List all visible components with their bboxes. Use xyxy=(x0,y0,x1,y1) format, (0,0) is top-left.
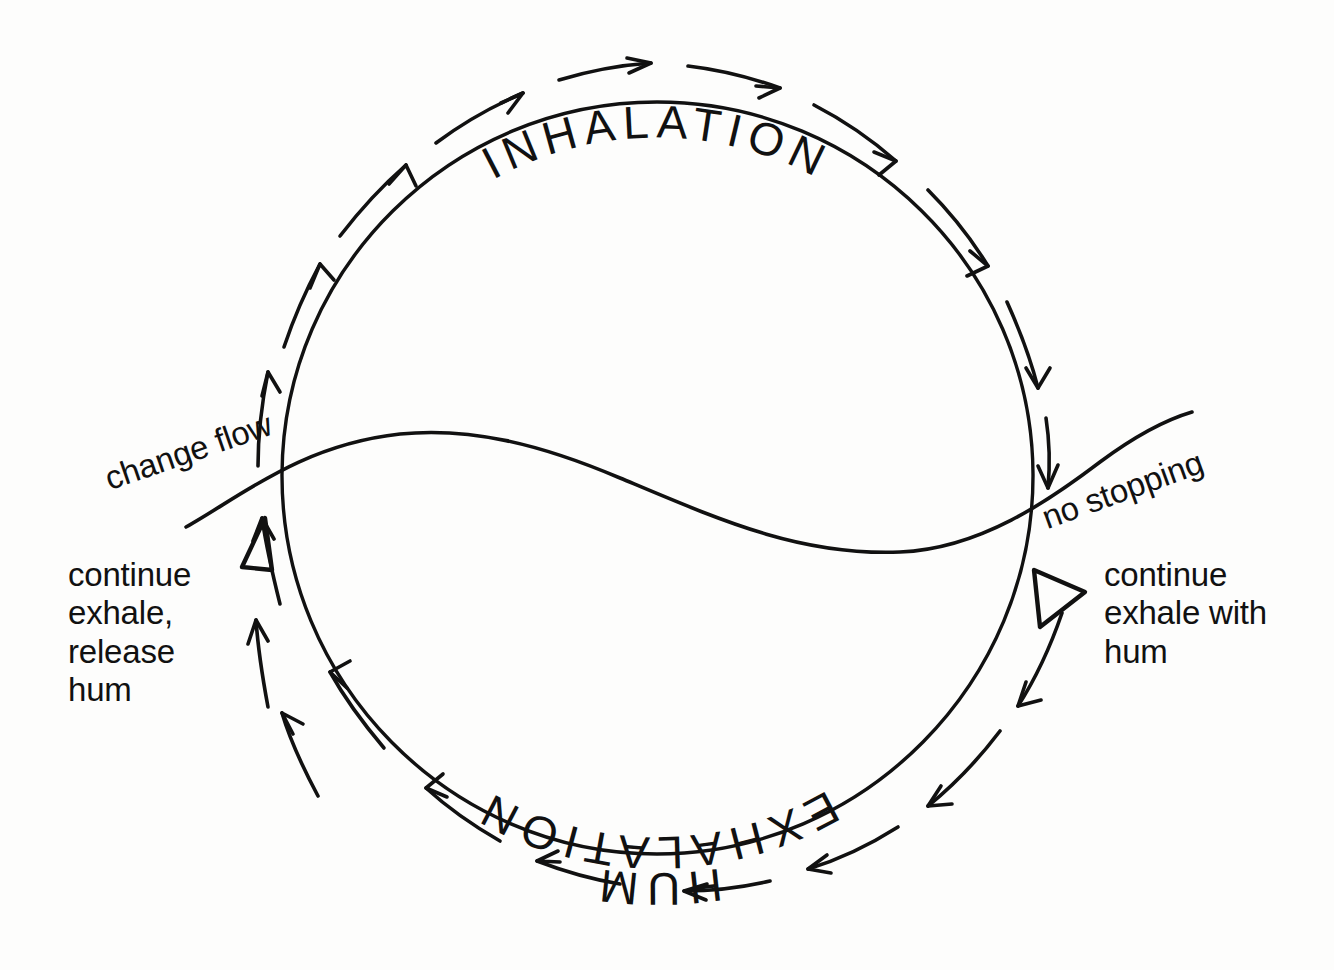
flow-s-curve xyxy=(186,412,1192,552)
hum-arc-label: HUM xyxy=(590,859,724,916)
flow-arrow-11 xyxy=(1007,302,1050,388)
flow-arrow-12 xyxy=(1038,418,1058,488)
note-left-continue-exhale: continue exhale, release hum xyxy=(68,556,258,709)
flow-arrow-8 xyxy=(688,66,780,98)
flow-arrow-14 xyxy=(928,731,1000,806)
cycle-circle xyxy=(282,102,1033,854)
diagram-canvas: INHALATION EXHALATION HUM change flow no… xyxy=(0,0,1334,970)
note-right-continue-exhale: continue exhale with hum xyxy=(1104,556,1319,671)
flow-arrow-7 xyxy=(559,58,651,80)
clockwise-arrow-ring xyxy=(248,58,1062,900)
inhalation-arc-label: INHALATION xyxy=(473,95,839,189)
flow-arrow-10 xyxy=(928,190,988,276)
flow-arrow-20 xyxy=(282,713,318,796)
